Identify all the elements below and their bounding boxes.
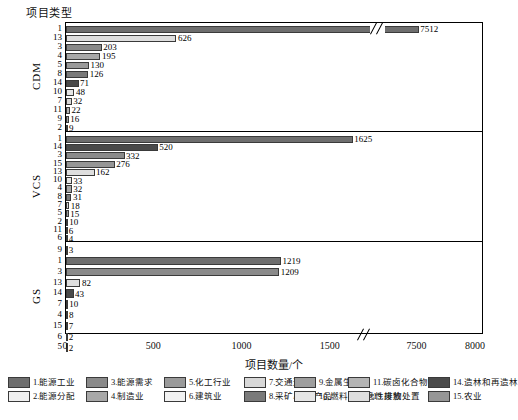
legend-swatch bbox=[428, 391, 450, 402]
legend-row: 2.能源分配4.制造业6.建筑业8.采矿/矿产产品10.燃料的飞逸性排放13.废… bbox=[8, 390, 494, 403]
bar-value-label: 10 bbox=[69, 300, 78, 309]
y-tick-label: 13 bbox=[32, 278, 62, 287]
legend-label: 5.化工行业 bbox=[189, 377, 231, 388]
legend-swatch bbox=[348, 377, 370, 388]
bar-value-label: 520 bbox=[159, 143, 173, 152]
legend-swatch bbox=[164, 377, 186, 388]
bar bbox=[66, 279, 80, 288]
panel-separator bbox=[66, 131, 482, 132]
legend-swatch bbox=[8, 377, 30, 388]
panel-separator bbox=[66, 241, 482, 242]
legend-label: 15.农业 bbox=[453, 391, 482, 402]
y-axis-title: 项目类型 bbox=[26, 4, 72, 20]
legend-item-4[interactable]: 4.制造业 bbox=[86, 390, 144, 403]
x-tick-label: 7500 bbox=[406, 340, 426, 351]
bar-value-label: 43 bbox=[75, 289, 84, 298]
bar bbox=[66, 300, 68, 309]
bar-value-label: 276 bbox=[116, 160, 130, 169]
legend-item-5[interactable]: 5.化工行业 bbox=[164, 376, 231, 389]
y-tick-label: 15 bbox=[32, 321, 62, 330]
panel-label-cdm: CDM bbox=[6, 70, 66, 82]
bar bbox=[66, 289, 74, 298]
legend-item-14[interactable]: 14.造林和再造林 bbox=[428, 376, 518, 389]
legend-item-6[interactable]: 6.建筑业 bbox=[164, 390, 222, 403]
y-tick-label: 2 bbox=[32, 124, 62, 132]
panel-label-text: CDM bbox=[30, 62, 42, 90]
panel-label-text: VCS bbox=[30, 174, 42, 198]
legend-label: 4.制造业 bbox=[111, 391, 144, 402]
x-tick-label: 8000 bbox=[465, 340, 485, 351]
legend-swatch bbox=[348, 391, 370, 402]
bar bbox=[66, 202, 69, 209]
chart-legend: 1.能源工业3.能源需求5.化工行业7.交通运输9.金属生产11.碳卤化合物等1… bbox=[8, 376, 494, 416]
legend-swatch bbox=[8, 391, 30, 402]
bar bbox=[66, 144, 158, 151]
legend-swatch bbox=[86, 391, 108, 402]
x-tick-label: 0 bbox=[63, 340, 68, 351]
y-tick-label: 5 bbox=[32, 342, 62, 351]
y-tick-label: 3 bbox=[32, 267, 62, 276]
legend-item-11[interactable]: 11.碳卤化合物等 bbox=[348, 376, 437, 389]
x-axis-title: 项目数量/个 bbox=[65, 356, 483, 372]
bar bbox=[66, 177, 72, 184]
legend-swatch bbox=[294, 377, 316, 388]
y-tick-label: 1 bbox=[32, 256, 62, 265]
bar-value-label: 7 bbox=[69, 322, 74, 331]
panel-label-gs: GS bbox=[6, 290, 66, 302]
legend-swatch bbox=[244, 391, 266, 402]
bar bbox=[66, 136, 353, 143]
bar-value-label: 1219 bbox=[283, 257, 301, 266]
legend-swatch bbox=[164, 391, 186, 402]
legend-label: 14.造林和再造林 bbox=[453, 377, 518, 388]
bar bbox=[66, 62, 89, 70]
legend-swatch bbox=[428, 377, 450, 388]
bar bbox=[66, 44, 102, 52]
bar-value-label: 3 bbox=[69, 246, 74, 255]
bar bbox=[66, 219, 68, 226]
bar-value-label: 162 bbox=[96, 168, 110, 177]
panel-label-vcs: VCS bbox=[6, 180, 66, 192]
x-tick-label: 1000 bbox=[231, 340, 251, 351]
legend-label: 3.能源需求 bbox=[111, 377, 153, 388]
bar bbox=[66, 35, 176, 43]
legend-item-1[interactable]: 1.能源工业 bbox=[8, 376, 75, 389]
bar-value-label: 626 bbox=[178, 34, 192, 43]
bar-value-label: 126 bbox=[90, 70, 104, 79]
bar bbox=[66, 210, 69, 217]
bar-value-label: 1209 bbox=[281, 268, 299, 277]
x-tick-label: 500 bbox=[146, 340, 161, 351]
legend-label: 13.废物处置 bbox=[373, 391, 420, 402]
bar bbox=[66, 246, 68, 255]
panel-label-text: GS bbox=[30, 288, 42, 304]
bar bbox=[66, 26, 419, 34]
bar bbox=[66, 257, 281, 266]
legend-item-3[interactable]: 3.能源需求 bbox=[86, 376, 153, 389]
legend-label: 2.能源分配 bbox=[33, 391, 75, 402]
bar-value-label: 7512 bbox=[420, 25, 438, 34]
legend-label: 1.能源工业 bbox=[33, 377, 75, 388]
bar bbox=[66, 107, 70, 115]
y-tick-label: 6 bbox=[32, 234, 62, 241]
bar bbox=[66, 227, 68, 234]
y-tick-label: 4 bbox=[32, 310, 62, 319]
legend-swatch bbox=[244, 377, 266, 388]
y-tick-label: 6 bbox=[32, 332, 62, 341]
bar bbox=[66, 311, 68, 320]
legend-item-2[interactable]: 2.能源分配 bbox=[8, 390, 75, 403]
plot-area: 7512626203195130126714832221691625520332… bbox=[65, 22, 483, 334]
x-tick-label: 1500 bbox=[320, 340, 340, 351]
x-axis: 05001000150075008000 项目数量/个 bbox=[65, 334, 483, 364]
legend-swatch bbox=[86, 377, 108, 388]
bar-value-label: 8 bbox=[69, 311, 74, 320]
legend-swatch bbox=[294, 391, 316, 402]
bar-value-label: 1625 bbox=[354, 135, 372, 144]
legend-item-15[interactable]: 15.农业 bbox=[428, 390, 482, 403]
y-tick-label: 9 bbox=[32, 245, 62, 254]
legend-label: 6.建筑业 bbox=[189, 391, 222, 402]
bar bbox=[66, 185, 72, 192]
bar-value-label: 82 bbox=[82, 278, 91, 287]
bar bbox=[66, 268, 279, 277]
legend-row: 1.能源工业3.能源需求5.化工行业7.交通运输9.金属生产11.碳卤化合物等1… bbox=[8, 376, 494, 389]
legend-item-13[interactable]: 13.废物处置 bbox=[348, 390, 420, 403]
